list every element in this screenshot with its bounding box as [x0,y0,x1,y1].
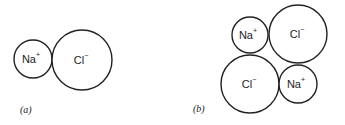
panel-b-caption: (b) [193,103,205,115]
panel-b: Na+ Cl− Cl− Na+ (b) [193,5,327,115]
panel-a-caption: (a) [20,104,32,116]
panel-a: Na+ Cl− (a) [14,30,112,116]
ion-diagram: Na+ Cl− (a) Na+ Cl− Cl− Na+ (b) [0,0,345,125]
